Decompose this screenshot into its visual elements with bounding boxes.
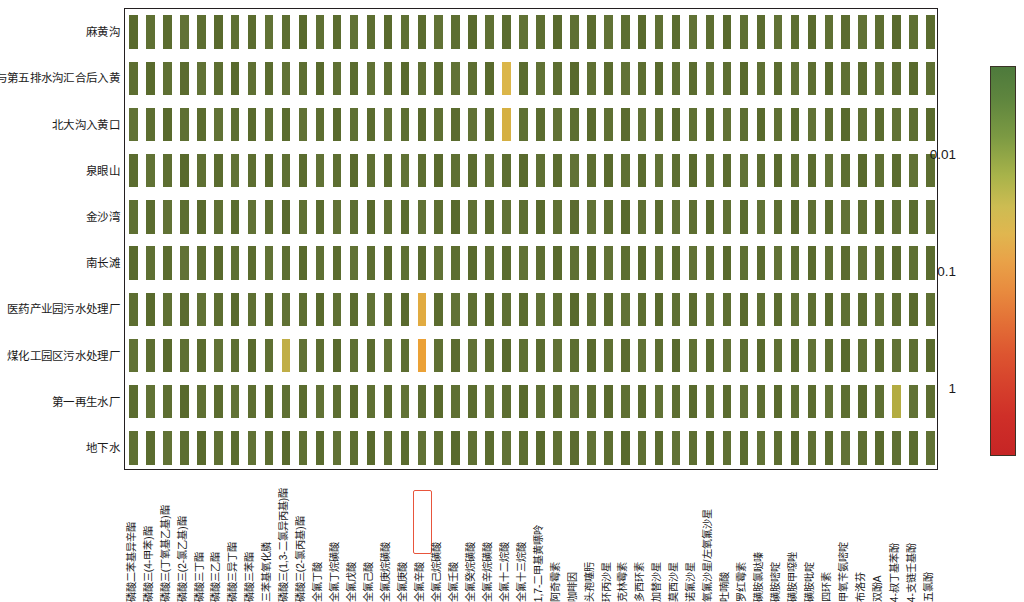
heatmap-cell xyxy=(706,246,714,279)
column-label: 三苯基氧化膦 xyxy=(262,542,272,602)
heatmap-cell xyxy=(502,293,510,326)
heatmap-cell xyxy=(621,108,629,141)
heatmap-cell xyxy=(638,431,646,464)
heatmap-cell xyxy=(282,246,290,279)
column-label: 磺胺吡啶 xyxy=(805,562,815,602)
column-label: 加替沙星 xyxy=(652,562,662,602)
heatmap-cell xyxy=(333,339,341,372)
colorbar-tick: 0.1 xyxy=(937,263,956,278)
heatmap-cell xyxy=(468,200,476,233)
row-label: 煤化工园区污水处理厂 xyxy=(7,347,120,363)
heatmap-cell xyxy=(875,154,883,187)
heatmap-cell xyxy=(248,15,256,48)
heatmap-cell-grid xyxy=(125,9,937,469)
heatmap-cell xyxy=(350,246,358,279)
heatmap-cell xyxy=(180,62,188,95)
heatmap-cell xyxy=(706,293,714,326)
column-label: 磷酸三丁酯 xyxy=(194,552,204,602)
heatmap-cell xyxy=(757,431,765,464)
heatmap-cell xyxy=(723,246,731,279)
heatmap-cell xyxy=(570,246,578,279)
heatmap-cell xyxy=(536,246,544,279)
heatmap-cell xyxy=(197,108,205,141)
heatmap-cell xyxy=(418,339,426,372)
heatmap-cell xyxy=(791,62,799,95)
heatmap-cell xyxy=(451,385,459,418)
heatmap-cell xyxy=(689,246,697,279)
heatmap-cell xyxy=(384,62,392,95)
row-label: 地下水 xyxy=(86,439,120,455)
heatmap-cell xyxy=(672,154,680,187)
heatmap-cell xyxy=(926,246,934,279)
column-label: 全氟庚酸 xyxy=(398,562,408,602)
heatmap-cell xyxy=(333,62,341,95)
heatmap-cell xyxy=(536,154,544,187)
heatmap-cell xyxy=(401,62,409,95)
heatmap-cell xyxy=(299,385,307,418)
heatmap-cell xyxy=(672,339,680,372)
heatmap-cell xyxy=(909,15,917,48)
heatmap-cell xyxy=(163,15,171,48)
heatmap-cell xyxy=(875,62,883,95)
heatmap-cell xyxy=(706,200,714,233)
column-label: 全氟十二烷酸 xyxy=(500,542,510,602)
column-label: 全氟戊酸 xyxy=(347,562,357,602)
heatmap-cell xyxy=(129,15,137,48)
heatmap-cell xyxy=(841,200,849,233)
heatmap-cell xyxy=(434,385,442,418)
column-label: 磺胺氯哒嗪 xyxy=(754,552,764,602)
heatmap-cell xyxy=(485,108,493,141)
heatmap-cell xyxy=(519,15,527,48)
colorbar-tick: 0.01 xyxy=(930,146,956,161)
heatmap-cell xyxy=(519,431,527,464)
heatmap-cell xyxy=(418,154,426,187)
heatmap-cell xyxy=(875,108,883,141)
row-label: 南长滩 xyxy=(86,254,120,270)
heatmap-cell xyxy=(146,108,154,141)
column-label: 阿奇霉素 xyxy=(550,562,560,602)
column-label: 磷酸三苯酯 xyxy=(245,552,255,602)
heatmap-cell xyxy=(231,15,239,48)
heatmap-cell xyxy=(926,293,934,326)
heatmap-cell xyxy=(316,431,324,464)
heatmap-cell xyxy=(367,246,375,279)
heatmap-cell xyxy=(858,246,866,279)
heatmap-cell xyxy=(672,385,680,418)
heatmap-cell xyxy=(231,108,239,141)
heatmap-cell xyxy=(129,62,137,95)
heatmap-cell xyxy=(316,15,324,48)
heatmap-cell xyxy=(519,62,527,95)
heatmap-cell xyxy=(570,339,578,372)
heatmap-cell xyxy=(655,15,663,48)
heatmap-cell xyxy=(740,293,748,326)
heatmap-cell xyxy=(841,339,849,372)
heatmap-cell xyxy=(638,385,646,418)
column-label: 磷酸三(2-氯丙基)酯 xyxy=(296,516,306,602)
heatmap-cell xyxy=(587,339,595,372)
heatmap-cell xyxy=(723,108,731,141)
column-label: 磷酸三(1,3-二氯异丙基)酯 xyxy=(279,488,289,602)
column-label: 四环素 xyxy=(822,572,832,602)
column-label: 环丙沙星 xyxy=(601,562,611,602)
heatmap-cell xyxy=(553,246,561,279)
heatmap-cell xyxy=(214,108,222,141)
heatmap-cell xyxy=(672,15,680,48)
heatmap-cell xyxy=(434,431,442,464)
heatmap-cell xyxy=(265,62,273,95)
heatmap-cell xyxy=(858,15,866,48)
heatmap-cell xyxy=(468,154,476,187)
heatmap-cell xyxy=(774,15,782,48)
column-label: 磷酸三乙酯 xyxy=(211,552,221,602)
heatmap-cell xyxy=(350,293,358,326)
column-label: 双酚A xyxy=(873,575,883,602)
heatmap-cell xyxy=(672,293,680,326)
heatmap-cell xyxy=(485,154,493,187)
heatmap-cell xyxy=(858,385,866,418)
heatmap-cell xyxy=(468,293,476,326)
heatmap-cell xyxy=(858,154,866,187)
heatmap-cell xyxy=(689,293,697,326)
heatmap-cell xyxy=(418,15,426,48)
column-label: 全氟庚烷磺酸 xyxy=(381,542,391,602)
heatmap-cell xyxy=(825,200,833,233)
heatmap-cell xyxy=(418,108,426,141)
